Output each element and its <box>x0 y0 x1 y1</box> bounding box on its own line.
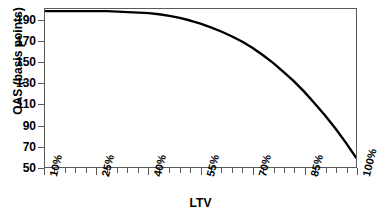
x-axis-title: LTV <box>44 196 357 210</box>
x-tick-mark-minor <box>336 168 337 173</box>
x-tick-mark-minor <box>284 168 285 173</box>
x-tick-mark-minor <box>190 168 191 173</box>
x-tick-mark-minor <box>242 168 243 173</box>
series-line-oas-vs-ltv <box>45 9 356 167</box>
x-tick-mark-minor <box>180 168 181 173</box>
x-tick-mark-minor <box>274 168 275 173</box>
x-tick-mark-major <box>148 168 149 175</box>
x-tick-mark-major <box>201 168 202 175</box>
x-tick-mark-minor <box>294 168 295 173</box>
x-tick-mark-major <box>44 168 45 175</box>
chart-title <box>34 0 334 2</box>
x-tick-mark-minor <box>221 168 222 173</box>
x-tick-mark-minor <box>169 168 170 173</box>
y-tick-label: 130 <box>16 77 36 89</box>
x-tick-mark-minor <box>127 168 128 173</box>
x-tick-mark-minor <box>138 168 139 173</box>
x-tick-mark-major <box>305 168 306 175</box>
x-tick-mark-minor <box>65 168 66 173</box>
x-tick-label: 100% <box>361 148 378 178</box>
x-tick-mark-minor <box>326 168 327 173</box>
x-tick-mark-minor <box>117 168 118 173</box>
x-tick-mark-minor <box>347 168 348 173</box>
y-tick-label: 150 <box>16 56 36 68</box>
x-tick-mark-major <box>357 168 358 175</box>
x-tick-label: 10% <box>48 154 64 178</box>
y-tick-label: 70 <box>23 141 36 153</box>
x-tick-mark-minor <box>86 168 87 173</box>
x-tick-mark-minor <box>232 168 233 173</box>
y-tick-label: 110 <box>17 98 36 110</box>
x-tick-mark-minor <box>75 168 76 173</box>
y-tick-label: 50 <box>23 162 36 174</box>
x-tick-mark-major <box>96 168 97 175</box>
y-tick-label: 90 <box>23 120 36 132</box>
y-tick-label: 170 <box>16 35 36 47</box>
x-tick-mark-major <box>253 168 254 175</box>
plot-area <box>44 8 357 168</box>
y-tick-label: 190 <box>16 14 36 26</box>
x-tick-label: 85% <box>309 154 325 178</box>
y-axis-labels: 190170150130110907050 <box>0 0 42 210</box>
